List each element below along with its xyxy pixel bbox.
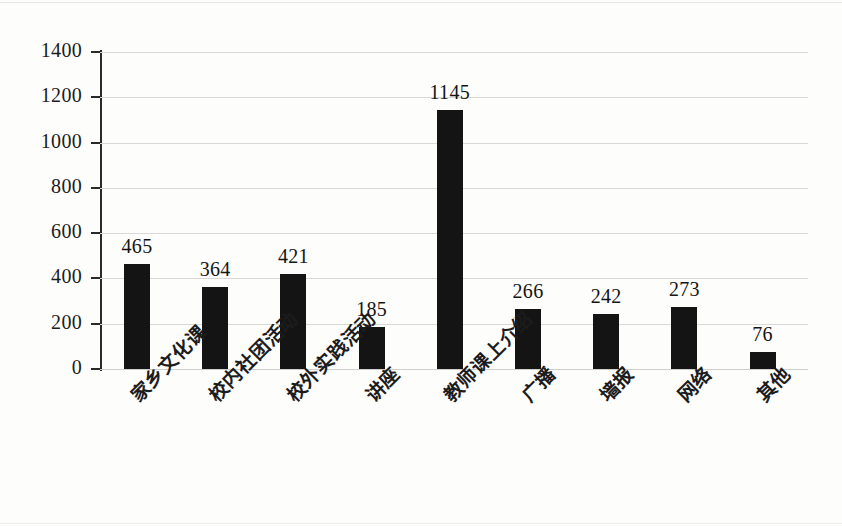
- y-axis-tick-label: 1200: [22, 84, 82, 107]
- y-axis-tick-label: 200: [22, 311, 82, 334]
- bar-value-label: 465: [102, 235, 172, 258]
- bar: [202, 287, 228, 369]
- y-axis-tick-label: 800: [22, 175, 82, 198]
- y-axis-tick-label: 600: [22, 220, 82, 243]
- bar-value-label: 266: [493, 280, 563, 303]
- y-axis-tick-label: 1000: [22, 130, 82, 153]
- gridline: [100, 52, 808, 53]
- y-axis-tick-label: 1400: [22, 39, 82, 62]
- bar: [124, 264, 150, 369]
- chart-page: 1400120010008006004002000 46536442118511…: [0, 0, 842, 526]
- y-axis-tick-labels: 1400120010008006004002000: [18, 0, 82, 526]
- scan-top-rule: [0, 2, 842, 3]
- y-axis-tick-label: 400: [22, 265, 82, 288]
- bar-value-label: 76: [728, 323, 798, 346]
- bar-value-label: 364: [180, 258, 250, 281]
- scan-bottom-rule: [0, 523, 842, 524]
- y-axis-tick-label: 0: [22, 356, 82, 379]
- bar: [671, 307, 697, 369]
- bar-value-label: 421: [258, 245, 328, 268]
- bar: [593, 314, 619, 369]
- bar: [437, 110, 463, 369]
- bar-value-label: 242: [571, 285, 641, 308]
- bar-value-label: 273: [649, 278, 719, 301]
- bar-value-label: 1145: [415, 81, 485, 104]
